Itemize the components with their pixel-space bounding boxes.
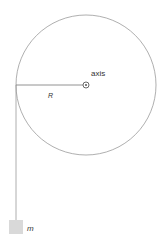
mass-label: m: [27, 224, 34, 233]
radius-label: R: [48, 92, 53, 99]
pulley-diagram: axis R m: [0, 0, 163, 243]
axis-label: axis: [91, 69, 105, 78]
mass-block: [9, 220, 23, 234]
axis-icon: [83, 82, 89, 88]
